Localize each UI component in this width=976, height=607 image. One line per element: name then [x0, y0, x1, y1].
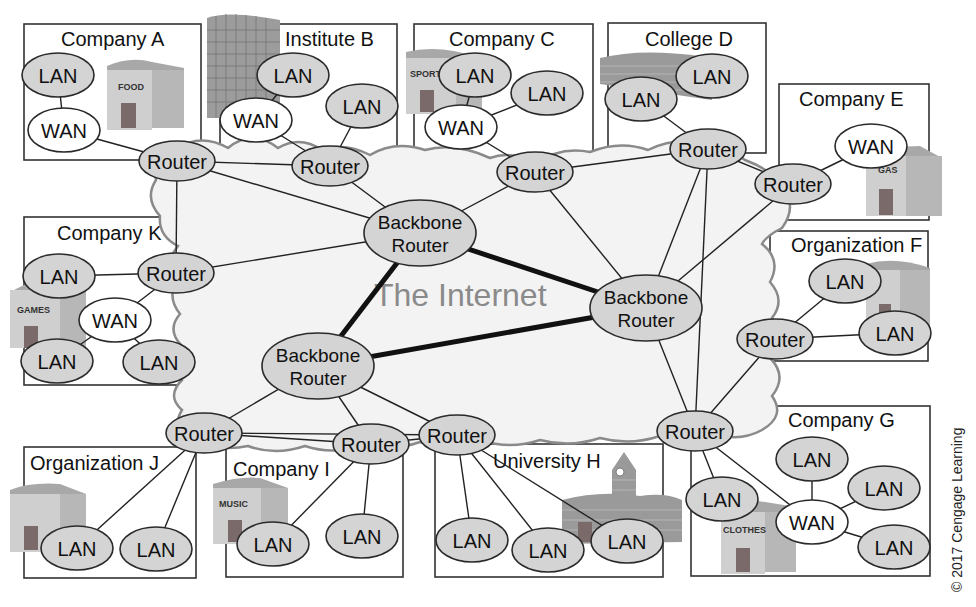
lan-node-lC1: LAN	[439, 53, 511, 97]
lan-node-lF2: LAN	[859, 311, 931, 355]
lan-label: LAN	[274, 65, 313, 87]
lan-label: LAN	[343, 96, 382, 118]
lan-node-lI1: LAN	[237, 522, 309, 566]
lan-node-lI2: LAN	[326, 514, 398, 558]
backbone-router-label: Router	[391, 235, 449, 256]
wan-label: WAN	[789, 512, 835, 534]
router-node-rA: Router	[139, 141, 215, 181]
org-title-company-i: Company I	[233, 458, 330, 480]
lan-node-lA1: LAN	[22, 53, 94, 97]
router-label: Router	[745, 329, 805, 351]
backbone-node-bb1: BackboneRouter	[364, 200, 476, 266]
lan-node-lD2: LAN	[676, 54, 748, 98]
org-title-company-a: Company A	[61, 28, 165, 50]
backbone-router-label: Backbone	[276, 345, 361, 366]
lan-node-lB2: LAN	[326, 84, 398, 128]
lan-node-lK2: LAN	[21, 339, 93, 383]
wan-node-wG: WAN	[776, 500, 848, 544]
lan-label: LAN	[343, 526, 382, 548]
lan-node-lG4: LAN	[858, 525, 930, 569]
router-label: Router	[678, 139, 738, 161]
router-label: Router	[763, 174, 823, 196]
wan-label: WAN	[233, 110, 279, 132]
lan-node-lH3: LAN	[591, 519, 663, 563]
wan-label: WAN	[438, 117, 484, 139]
backbone-ellipse	[262, 333, 374, 399]
wan-label: WAN	[41, 120, 87, 142]
lan-label: LAN	[254, 534, 293, 556]
router-label: Router	[427, 425, 487, 447]
org-title-university-h: University H	[493, 450, 601, 472]
backbone-router-label: Router	[617, 310, 675, 331]
internet-network-diagram: Company A Institute B Company C College …	[0, 0, 976, 607]
router-node-rJ: Router	[166, 413, 242, 453]
lan-label: LAN	[137, 539, 176, 561]
lan-node-lG3: LAN	[848, 466, 920, 510]
building-sign-music: MUSIC	[219, 499, 249, 509]
wan-node-wA: WAN	[28, 108, 100, 152]
wan-label: WAN	[848, 136, 894, 158]
router-node-rB: Router	[292, 146, 368, 186]
lan-node-lJ1: LAN	[41, 526, 113, 570]
wan-node-wK: WAN	[79, 298, 151, 342]
router-node-rC: Router	[497, 152, 573, 192]
lan-node-lH2: LAN	[512, 528, 584, 572]
org-title-college-d: College D	[645, 28, 733, 50]
lan-node-lC2: LAN	[511, 71, 583, 115]
building-food-icon: FOOD	[107, 60, 184, 130]
lan-label: LAN	[876, 323, 915, 345]
lan-label: LAN	[528, 83, 567, 105]
lan-label: LAN	[693, 66, 732, 88]
lan-label: LAN	[608, 531, 647, 553]
internet-label: The Internet	[374, 277, 547, 313]
lan-label: LAN	[140, 352, 179, 374]
wan-label: WAN	[92, 310, 138, 332]
router-label: Router	[147, 151, 207, 173]
lan-label: LAN	[39, 65, 78, 87]
lan-label: LAN	[865, 478, 904, 500]
lan-label: LAN	[529, 540, 568, 562]
router-label: Router	[665, 421, 725, 443]
lan-label: LAN	[875, 537, 914, 559]
copyright-notice: © 2017 Cengage Learning	[949, 428, 965, 592]
router-node-rD: Router	[670, 129, 746, 169]
lan-label: LAN	[622, 89, 661, 111]
router-label: Router	[505, 162, 565, 184]
router-node-rE: Router	[755, 164, 831, 204]
building-sign-games: GAMES	[17, 305, 50, 315]
backbone-node-bb2: BackboneRouter	[590, 275, 702, 341]
router-node-rK: Router	[138, 253, 214, 293]
backbone-ellipse	[364, 200, 476, 266]
router-node-rG: Router	[657, 411, 733, 451]
lan-node-lJ2: LAN	[120, 527, 192, 571]
wan-node-wE: WAN	[835, 124, 907, 168]
lan-label: LAN	[40, 266, 79, 288]
backbone-node-bb3: BackboneRouter	[262, 333, 374, 399]
backbone-router-label: Router	[289, 368, 347, 389]
org-title-organization-j: Organization J	[30, 452, 159, 474]
lan-node-lG2: LAN	[776, 437, 848, 481]
lan-node-lK3: LAN	[123, 340, 195, 384]
lan-node-lK1: LAN	[23, 254, 95, 298]
lan-label: LAN	[703, 489, 742, 511]
org-title-institute-b: Institute B	[285, 28, 374, 50]
router-node-rF: Router	[737, 319, 813, 359]
router-label: Router	[146, 263, 206, 285]
router-label: Router	[174, 423, 234, 445]
org-title-organization-f: Organization F	[791, 234, 922, 256]
lan-label: LAN	[58, 538, 97, 560]
org-title-company-g: Company G	[788, 409, 895, 431]
lan-node-lD1: LAN	[605, 77, 677, 121]
wan-node-wB: WAN	[220, 98, 292, 142]
building-sign-food: FOOD	[118, 82, 144, 92]
router-node-rH: Router	[419, 415, 495, 455]
lan-label: LAN	[456, 65, 495, 87]
lan-node-lG1: LAN	[686, 477, 758, 521]
org-title-company-k: Company K	[57, 222, 162, 244]
router-label: Router	[341, 434, 401, 456]
building-sign-clothes: CLOTHES	[723, 525, 766, 535]
backbone-router-label: Backbone	[604, 287, 689, 308]
lan-node-lH1: LAN	[436, 518, 508, 562]
lan-label: LAN	[38, 351, 77, 373]
router-label: Router	[300, 156, 360, 178]
